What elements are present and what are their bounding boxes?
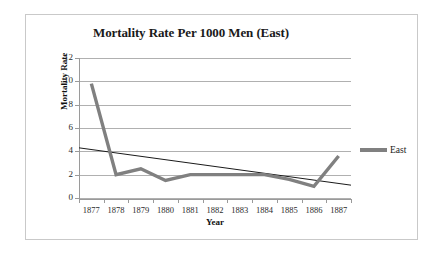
- y-axis-tick-label: 12: [26, 52, 73, 62]
- x-axis-tick: [227, 199, 228, 203]
- x-axis-tick: [302, 199, 303, 203]
- legend-swatch-east: [360, 148, 387, 152]
- y-axis-tick: [75, 175, 80, 176]
- x-axis-tick-label: 1886: [302, 205, 327, 215]
- x-axis-tick-label: 1884: [252, 205, 277, 215]
- x-axis-tick-label: 1878: [104, 205, 129, 215]
- y-axis-tick: [75, 58, 80, 59]
- y-axis-tick-label: 6: [26, 122, 73, 132]
- y-axis-tick-label: 10: [26, 75, 73, 85]
- legend-label-east: East: [390, 145, 406, 155]
- x-axis-tick: [203, 199, 204, 203]
- x-axis-tick: [326, 199, 327, 203]
- y-axis-tick-label: 2: [26, 169, 73, 179]
- x-axis-tick-label: 1883: [227, 205, 252, 215]
- x-axis-tick-label: 1885: [277, 205, 302, 215]
- x-axis-tick-label: 1879: [128, 205, 153, 215]
- x-axis-tick-label: 1882: [203, 205, 228, 215]
- x-axis-title: Year: [79, 217, 351, 227]
- east-series-path: [91, 84, 338, 187]
- x-axis-tick: [277, 199, 278, 203]
- y-axis-tick: [75, 105, 80, 106]
- x-axis-tick: [351, 199, 352, 203]
- x-axis-tick: [153, 199, 154, 203]
- trendline-path: [79, 148, 351, 185]
- y-axis-tick: [75, 151, 80, 152]
- x-axis-tick-label: 1880: [153, 205, 178, 215]
- y-axis-tick: [75, 81, 80, 82]
- y-axis-tick: [75, 128, 80, 129]
- x-axis-tick-label: 1887: [326, 205, 351, 215]
- y-axis-tick-label: 8: [26, 99, 73, 109]
- plot-area: [79, 58, 351, 198]
- x-axis-line: [79, 199, 351, 200]
- x-axis-tick: [178, 199, 179, 203]
- x-axis-tick: [79, 199, 80, 203]
- series-line-east: [79, 58, 351, 198]
- x-axis-tick: [128, 199, 129, 203]
- chart-frame: Mortality Rate Per 1000 Men (East) Morta…: [25, 14, 418, 240]
- x-axis-tick: [252, 199, 253, 203]
- chart-legend: East: [360, 145, 406, 155]
- chart-title: Mortality Rate Per 1000 Men (East): [26, 25, 356, 41]
- y-axis-tick-label: 4: [26, 145, 73, 155]
- x-axis-tick-label: 1881: [178, 205, 203, 215]
- x-axis-tick-label: 1877: [79, 205, 104, 215]
- y-axis-tick-label: 0: [26, 192, 73, 202]
- x-axis-tick: [104, 199, 105, 203]
